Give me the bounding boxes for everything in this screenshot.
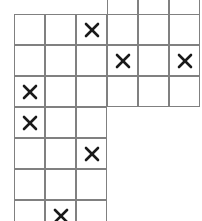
grid-cell-r6c2[interactable] — [45, 169, 76, 200]
grid-board — [0, 0, 202, 221]
grid-cell-r4c2[interactable] — [45, 107, 76, 138]
grid-cell-r3c2[interactable] — [45, 76, 76, 107]
grid-cell-r4c3[interactable] — [76, 107, 107, 138]
grid-cell-r1c5[interactable] — [138, 14, 169, 45]
x-mark-icon — [15, 77, 44, 106]
grid-cell-r2c4[interactable] — [107, 45, 138, 76]
grid-cell-r2c1[interactable] — [14, 45, 45, 76]
grid-cell-r3c5[interactable] — [138, 76, 169, 107]
grid-cell-r7c1[interactable] — [14, 200, 45, 221]
grid-cell-r6c3[interactable] — [76, 169, 107, 200]
grid-cell-r3c1[interactable] — [14, 76, 45, 107]
grid-cell-r7c3[interactable] — [76, 200, 107, 221]
grid-cell-r5c3[interactable] — [76, 138, 107, 169]
x-mark-icon — [108, 46, 137, 75]
x-mark-icon — [77, 139, 106, 168]
grid-cell-r5c1[interactable] — [14, 138, 45, 169]
grid-cell-r3c4[interactable] — [107, 76, 138, 107]
grid-cell-r1c3[interactable] — [76, 14, 107, 45]
grid-cell-r4c1[interactable] — [14, 107, 45, 138]
grid-cell-r2c5[interactable] — [138, 45, 169, 76]
x-mark-icon — [77, 15, 106, 44]
grid-cell-r6c1[interactable] — [14, 169, 45, 200]
x-mark-icon — [46, 201, 75, 221]
grid-cell-r2c3[interactable] — [76, 45, 107, 76]
grid-cell-r5c2[interactable] — [45, 138, 76, 169]
grid-cell-r2c6[interactable] — [169, 45, 200, 76]
x-mark-icon — [170, 46, 199, 75]
grid-cell-r1c6[interactable] — [169, 14, 200, 45]
grid-cell-r3c6[interactable] — [169, 76, 200, 107]
grid-cell-r1c1[interactable] — [14, 14, 45, 45]
grid-cell-r2c2[interactable] — [45, 45, 76, 76]
x-mark-icon — [15, 108, 44, 137]
grid-cell-r3c3[interactable] — [76, 76, 107, 107]
grid-cell-r1c4[interactable] — [107, 14, 138, 45]
grid-cell-r7c2[interactable] — [45, 200, 76, 221]
grid-cell-r1c2[interactable] — [45, 14, 76, 45]
